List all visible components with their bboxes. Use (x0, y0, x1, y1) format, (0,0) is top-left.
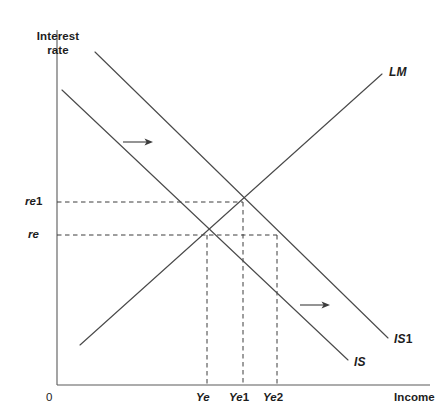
y-tick-label-re: re (28, 228, 39, 242)
lm-curve (80, 74, 382, 345)
y-axis-title: Interest rate (22, 30, 94, 57)
x-tick-ye2-suffix: 2 (277, 391, 283, 403)
curve-label-is1-prefix: IS (394, 332, 406, 346)
y-tick-re1-prefix: re (25, 195, 36, 207)
curve-label-is-prefix: IS (354, 355, 366, 369)
curve-label-lm: LM (389, 65, 407, 79)
shift-arrow-upper-icon (123, 138, 153, 145)
x-axis-title: Income (394, 391, 435, 405)
x-tick-label-ye2: Ye2 (263, 391, 283, 405)
x-tick-label-ye: Ye (196, 391, 210, 405)
curve-label-is1: IS1 (394, 332, 413, 346)
origin-label: 0 (46, 391, 52, 405)
curves-group (62, 52, 388, 360)
x-tick-ye1-prefix: Ye (229, 391, 243, 403)
is1-curve (95, 52, 388, 338)
islm-figure: Interest rate Income 0 re1 re Ye Ye1 Ye2… (0, 0, 446, 415)
curve-label-lm-prefix: LM (389, 65, 407, 79)
x-tick-ye-prefix: Ye (196, 391, 210, 403)
chart-canvas (0, 0, 446, 415)
x-tick-ye2-prefix: Ye (263, 391, 277, 403)
curve-label-is: IS (354, 355, 366, 369)
shift-arrow-lower-icon (300, 301, 330, 308)
y-tick-re1-suffix: 1 (36, 195, 42, 207)
curve-label-is1-suffix: 1 (406, 332, 413, 346)
x-tick-label-ye1: Ye1 (229, 391, 249, 405)
guide-lines-group (57, 202, 277, 385)
shift-arrows-group (123, 138, 330, 308)
y-tick-label-re1: re1 (25, 195, 42, 209)
y-tick-re-prefix: re (28, 228, 39, 240)
x-tick-ye1-suffix: 1 (243, 391, 249, 403)
is-curve (62, 90, 348, 360)
